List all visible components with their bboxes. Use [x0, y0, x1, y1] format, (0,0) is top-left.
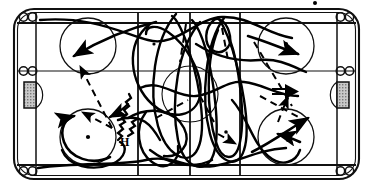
goal-net-left: [24, 82, 36, 108]
goal-net-right: [337, 82, 349, 108]
faceoff-dot-top-right: [284, 42, 288, 46]
scan-speck: [313, 1, 317, 5]
faceoff-dot-bottom-left: [86, 135, 90, 139]
player-label-h: H: [120, 135, 130, 149]
rink-drawing: H: [0, 0, 373, 188]
hockey-rink-diagram: H: [0, 0, 373, 188]
